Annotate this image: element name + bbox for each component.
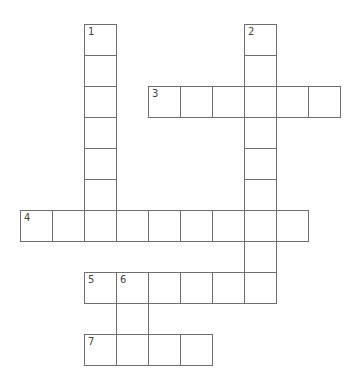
crossword-cell[interactable]: [180, 272, 213, 304]
clue-number: 4: [24, 213, 30, 223]
crossword-cell[interactable]: 1: [84, 24, 117, 56]
crossword-cell[interactable]: [244, 241, 277, 273]
crossword-cell[interactable]: [180, 86, 213, 118]
clue-number: 3: [152, 89, 158, 99]
crossword-cell[interactable]: [180, 334, 213, 366]
crossword-cell[interactable]: [116, 210, 149, 242]
crossword-cell[interactable]: 4: [20, 210, 53, 242]
crossword-cell[interactable]: [84, 55, 117, 87]
crossword-cell[interactable]: [116, 303, 149, 335]
crossword-cell[interactable]: [244, 179, 277, 211]
crossword-cell[interactable]: [308, 86, 341, 118]
crossword-cell[interactable]: [148, 272, 181, 304]
crossword-cell[interactable]: [52, 210, 85, 242]
crossword-grid: 1234567: [0, 0, 359, 386]
crossword-cell[interactable]: [244, 86, 277, 118]
crossword-cell[interactable]: 3: [148, 86, 181, 118]
crossword-cell[interactable]: [148, 210, 181, 242]
crossword-cell[interactable]: [84, 148, 117, 180]
crossword-cell[interactable]: [84, 86, 117, 118]
crossword-cell[interactable]: [276, 86, 309, 118]
clue-number: 6: [120, 275, 126, 285]
crossword-cell[interactable]: [244, 210, 277, 242]
crossword-cell[interactable]: [84, 179, 117, 211]
crossword-cell[interactable]: [212, 86, 245, 118]
crossword-cell[interactable]: 5: [84, 272, 117, 304]
crossword-cell[interactable]: [244, 55, 277, 87]
crossword-cell[interactable]: 6: [116, 272, 149, 304]
crossword-cell[interactable]: 7: [84, 334, 117, 366]
crossword-cell[interactable]: [212, 210, 245, 242]
crossword-cell[interactable]: [244, 272, 277, 304]
crossword-cell[interactable]: [84, 210, 117, 242]
clue-number: 1: [88, 27, 94, 37]
clue-number: 7: [88, 337, 94, 347]
clue-number: 5: [88, 275, 94, 285]
crossword-cell[interactable]: 2: [244, 24, 277, 56]
crossword-cell[interactable]: [116, 334, 149, 366]
crossword-cell[interactable]: [84, 117, 117, 149]
crossword-cell[interactable]: [148, 334, 181, 366]
crossword-cell[interactable]: [244, 148, 277, 180]
crossword-cell[interactable]: [244, 117, 277, 149]
crossword-cell[interactable]: [276, 210, 309, 242]
clue-number: 2: [248, 27, 254, 37]
crossword-cell[interactable]: [180, 210, 213, 242]
crossword-cell[interactable]: [212, 272, 245, 304]
